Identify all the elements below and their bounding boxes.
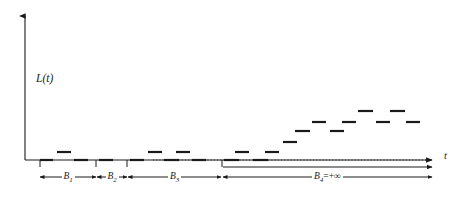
bracket-label-subscript: 3 <box>176 176 180 184</box>
step-segments-group <box>40 111 420 160</box>
bracket-label-subscript: 2 <box>113 176 117 184</box>
bracket-label-b1: B1 <box>62 172 75 184</box>
bracket-label-b3: B3 <box>168 172 181 184</box>
bracket-label-b2: B2 <box>106 172 119 184</box>
x-axis-label: t <box>444 151 447 162</box>
figure-container: L(t) t B1B2B3B4=+∞ <box>0 0 465 209</box>
bracket-label-subscript: 1 <box>69 176 73 184</box>
block-brackets-group <box>40 167 432 177</box>
bracket-label-b4: B4=+∞ <box>312 172 343 184</box>
axes-group <box>25 16 432 160</box>
y-axis-label: L(t) <box>36 73 53 85</box>
bracket-label-suffix: =+∞ <box>323 171 341 181</box>
